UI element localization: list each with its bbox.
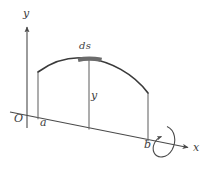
x-axis-label: x <box>193 142 199 153</box>
figure-container: y x O a b ds y <box>0 0 207 174</box>
y-axis-label: y <box>23 8 29 19</box>
origin-label: O <box>14 113 23 124</box>
lower-bound-label-a: a <box>40 117 47 128</box>
arc-element-ds-segment <box>78 59 102 60</box>
upper-bound-label-b: b <box>144 139 151 150</box>
height-label-y: y <box>91 90 97 101</box>
x-axis-line <box>10 112 188 148</box>
surface-of-revolution-diagram <box>0 0 207 174</box>
function-curve <box>38 58 148 93</box>
arc-element-label-ds: ds <box>79 41 91 51</box>
